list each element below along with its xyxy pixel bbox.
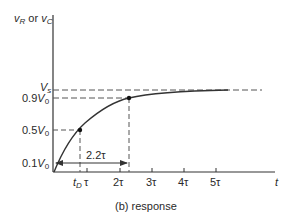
y-label-v05: 0.5V0: [22, 124, 50, 138]
x-label-tau3: 3τ: [146, 176, 157, 188]
v05-marker: [78, 128, 82, 132]
v09-marker: [127, 96, 131, 100]
x-axis-title: t: [275, 176, 279, 188]
x-label-tau5: 5τ: [210, 176, 221, 188]
x-label-tau2: 2τ: [113, 176, 124, 188]
interval-label: 2.2τ: [86, 149, 106, 161]
y-axis-title: vR or vC: [14, 12, 53, 26]
caption: (b) response: [115, 200, 177, 212]
x-label-tau4: 4τ: [178, 176, 189, 188]
y-label-v01: 0.1V0: [22, 157, 50, 171]
x-label-tau1: τ: [84, 176, 89, 188]
response-diagram: 2.2τ vR or vC Vs 0.9V0 0.5V0 0.1V0 tD τ …: [0, 0, 293, 219]
y-label-v09: 0.9V0: [22, 92, 50, 106]
x-label-td: tD: [73, 176, 82, 190]
